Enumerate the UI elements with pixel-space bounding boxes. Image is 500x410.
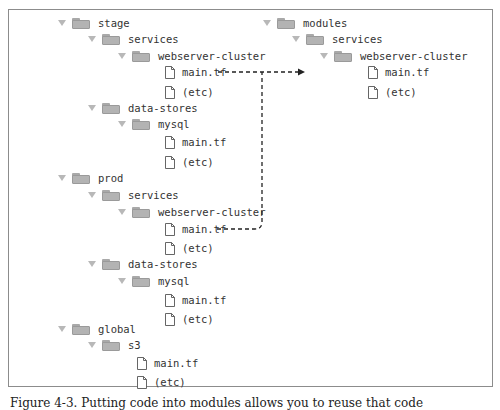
- expand-triangle-icon[interactable]: [88, 342, 96, 348]
- folder-label: services: [128, 187, 179, 203]
- folder-icon: [102, 340, 120, 351]
- file-icon: [137, 357, 147, 370]
- expand-triangle-icon[interactable]: [118, 121, 126, 127]
- file-label: (etc): [182, 84, 214, 100]
- folder-row-right[interactable]: services: [292, 31, 383, 47]
- file-label: (etc): [154, 374, 186, 390]
- folder-row-left[interactable]: mysql: [118, 273, 190, 289]
- expand-triangle-icon[interactable]: [118, 209, 126, 215]
- folder-icon: [72, 18, 90, 29]
- folder-label: services: [332, 31, 383, 47]
- expand-triangle-icon[interactable]: [58, 20, 66, 26]
- folder-icon: [102, 259, 120, 270]
- file-row-left[interactable]: main.tf: [137, 355, 198, 371]
- folder-row-right[interactable]: webserver-cluster: [320, 48, 467, 64]
- file-label: (etc): [182, 311, 214, 327]
- expand-triangle-icon[interactable]: [88, 105, 96, 111]
- file-label: main.tf: [385, 64, 429, 80]
- folder-label: webserver-cluster: [158, 48, 265, 64]
- folder-row-left[interactable]: mysql: [118, 116, 190, 132]
- file-icon: [165, 136, 175, 149]
- folder-icon: [277, 18, 295, 29]
- file-row-left[interactable]: (etc): [165, 311, 214, 327]
- folder-label: data-stores: [128, 100, 198, 116]
- file-row-left[interactable]: (etc): [165, 154, 214, 170]
- folder-row-left[interactable]: webserver-cluster: [118, 204, 265, 220]
- expand-triangle-icon[interactable]: [118, 53, 126, 59]
- folder-icon: [72, 324, 90, 335]
- file-row-left[interactable]: main.tf: [165, 134, 226, 150]
- file-icon: [165, 66, 175, 79]
- folder-icon: [334, 51, 352, 62]
- folder-row-right[interactable]: modules: [263, 15, 347, 31]
- file-label: (etc): [385, 84, 417, 100]
- expand-triangle-icon[interactable]: [88, 261, 96, 267]
- file-row-left[interactable]: main.tf: [165, 221, 226, 237]
- expand-triangle-icon[interactable]: [88, 36, 96, 42]
- folder-label: webserver-cluster: [158, 204, 265, 220]
- folder-label: stage: [98, 15, 130, 31]
- file-row-left[interactable]: (etc): [165, 84, 214, 100]
- file-icon: [165, 294, 175, 307]
- folder-icon: [102, 190, 120, 201]
- folder-label: mysql: [158, 273, 190, 289]
- file-icon: [165, 86, 175, 99]
- file-icon: [165, 242, 175, 255]
- file-icon: [368, 86, 378, 99]
- folder-label: prod: [98, 170, 123, 186]
- expand-triangle-icon[interactable]: [320, 53, 328, 59]
- file-icon: [165, 313, 175, 326]
- folder-row-left[interactable]: prod: [58, 170, 123, 186]
- file-label: main.tf: [182, 221, 226, 237]
- folder-icon: [132, 276, 150, 287]
- file-icon: [165, 223, 175, 236]
- file-row-right[interactable]: (etc): [368, 84, 417, 100]
- folder-label: webserver-cluster: [360, 48, 467, 64]
- folder-row-left[interactable]: data-stores: [88, 100, 198, 116]
- folder-label: services: [128, 31, 179, 47]
- folder-row-left[interactable]: data-stores: [88, 256, 198, 272]
- file-icon: [368, 66, 378, 79]
- folder-icon: [132, 119, 150, 130]
- folder-label: mysql: [158, 116, 190, 132]
- folder-row-left[interactable]: stage: [58, 15, 130, 31]
- expand-triangle-icon[interactable]: [263, 20, 271, 26]
- file-label: main.tf: [182, 292, 226, 308]
- file-row-left[interactable]: main.tf: [165, 64, 226, 80]
- file-icon: [137, 376, 147, 389]
- file-label: main.tf: [154, 355, 198, 371]
- folder-row-left[interactable]: s3: [88, 337, 141, 353]
- expand-triangle-icon[interactable]: [88, 192, 96, 198]
- file-row-right[interactable]: main.tf: [368, 64, 429, 80]
- folder-icon: [102, 34, 120, 45]
- folder-icon: [72, 173, 90, 184]
- file-row-left[interactable]: (etc): [165, 240, 214, 256]
- file-label: main.tf: [182, 134, 226, 150]
- folder-row-left[interactable]: services: [88, 187, 179, 203]
- folder-icon: [306, 34, 324, 45]
- file-label: (etc): [182, 154, 214, 170]
- folder-label: s3: [128, 337, 141, 353]
- file-label: (etc): [182, 240, 214, 256]
- folder-icon: [102, 103, 120, 114]
- expand-triangle-icon[interactable]: [118, 278, 126, 284]
- file-icon: [165, 156, 175, 169]
- expand-triangle-icon[interactable]: [58, 326, 66, 332]
- expand-triangle-icon[interactable]: [292, 36, 300, 42]
- figure-caption: Figure 4-3. Putting code into modules al…: [10, 396, 423, 410]
- folder-row-left[interactable]: global: [58, 321, 136, 337]
- folder-icon: [132, 207, 150, 218]
- expand-triangle-icon[interactable]: [58, 175, 66, 181]
- folder-row-left[interactable]: webserver-cluster: [118, 48, 265, 64]
- folder-icon: [132, 51, 150, 62]
- folder-label: modules: [303, 15, 347, 31]
- folder-row-left[interactable]: services: [88, 31, 179, 47]
- file-row-left[interactable]: (etc): [137, 374, 186, 390]
- file-row-left[interactable]: main.tf: [165, 292, 226, 308]
- folder-label: global: [98, 321, 136, 337]
- file-label: main.tf: [182, 64, 226, 80]
- folder-label: data-stores: [128, 256, 198, 272]
